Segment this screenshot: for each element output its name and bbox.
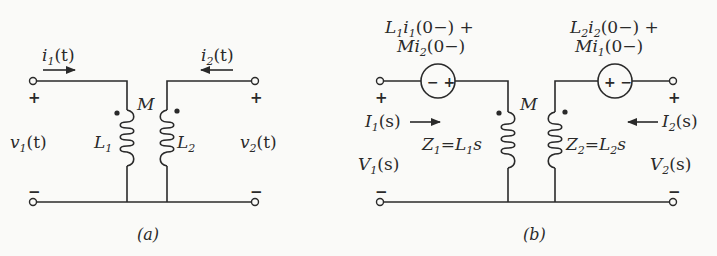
inductor-z1-coil-icon <box>501 112 515 168</box>
circuit-figure: i1(t) i2(t) + + − − v1(t) v2(t) L1 L2 M … <box>0 0 717 256</box>
label-l1: L1 <box>93 132 112 155</box>
plus-b-left: + <box>375 89 388 107</box>
terminal-b-left-top <box>377 78 384 85</box>
minus-b-right: − <box>668 183 681 201</box>
label-v1t: v1(t) <box>10 132 47 155</box>
label-z2: Z2=L2s <box>565 134 626 157</box>
label-mutual-a: M <box>136 94 155 114</box>
label-V2s: V2(s) <box>650 154 691 177</box>
label-mutual-b: M <box>519 94 538 114</box>
plus-a-left: + <box>28 89 41 107</box>
wire-b-src2-to-coil <box>555 81 598 112</box>
terminal-b-right-top <box>670 78 677 85</box>
plus-b-right: + <box>668 89 681 107</box>
polarity-dot-z2-icon <box>562 109 567 114</box>
polarity-dot-l2-icon <box>174 108 179 113</box>
label-v2t: v2(t) <box>240 132 277 155</box>
wire-top-left <box>36 81 127 110</box>
wire-top-right <box>167 81 252 110</box>
inductor-l1-coil-icon <box>120 110 134 166</box>
label-i2t: i2(t) <box>201 45 234 68</box>
label-i1t: i1(t) <box>42 45 75 68</box>
source-right-label-line2: Mi1(0−) <box>574 36 643 59</box>
label-I2s: I2(s) <box>661 111 698 134</box>
label-l2: L2 <box>176 132 195 155</box>
label-z1: Z1=L1s <box>421 134 482 157</box>
source-right-polarity: + − <box>604 74 632 90</box>
inductor-z2-coil-icon <box>548 112 562 168</box>
polarity-dot-l1-icon <box>114 110 119 115</box>
wire-b-src1-to-coil <box>455 81 508 112</box>
caption-a: (a) <box>137 225 159 244</box>
label-I1s: I1(s) <box>364 111 401 134</box>
diagram-b: − + + − L1i1(0−) + Mi2(0−) L2i2(0−) + Mi… <box>358 17 698 244</box>
inductor-l2-coil-icon <box>160 110 174 166</box>
terminal-a-left-top <box>30 78 37 85</box>
minus-a-right: − <box>250 183 263 201</box>
minus-b-left: − <box>375 183 388 201</box>
label-V1s: V1(s) <box>358 154 399 177</box>
plus-a-right: + <box>250 89 263 107</box>
source-left-polarity: − + <box>427 74 455 90</box>
minus-a-left: − <box>28 183 41 201</box>
caption-b: (b) <box>523 225 546 244</box>
terminal-a-right-top <box>252 78 259 85</box>
polarity-dot-z1-icon <box>496 110 501 115</box>
diagram-a: i1(t) i2(t) + + − − v1(t) v2(t) L1 L2 M … <box>10 45 277 244</box>
source-left-label-line2: Mi2(0−) <box>396 36 465 59</box>
